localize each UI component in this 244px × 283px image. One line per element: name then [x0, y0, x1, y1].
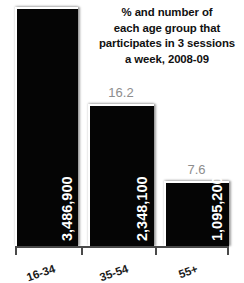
- x-axis-tick-2: [155, 246, 157, 255]
- bar-count-label-2: 2,348,100: [134, 176, 150, 241]
- x-axis-category-label-2: 35-54: [98, 262, 130, 283]
- x-axis-category-label-1: 16-34: [25, 262, 57, 283]
- bar-value-label-3: 7.6: [164, 162, 229, 177]
- bar-1: 3,486,900: [15, 7, 78, 246]
- x-axis-line: [15, 246, 229, 248]
- bar-3: 1,095,200: [164, 181, 229, 246]
- bar-chart: % and number of each age group that part…: [0, 0, 244, 283]
- bar-2: 2,348,100: [88, 104, 154, 246]
- x-axis-tick-left: [15, 246, 17, 255]
- bar-value-label-2: 16.2: [88, 85, 154, 100]
- x-axis-tick-right: [227, 246, 229, 255]
- bar-count-label-1: 3,486,900: [59, 176, 75, 241]
- x-axis-tick-1: [81, 246, 83, 255]
- bar-count-label-3: 1,095,200: [209, 176, 225, 241]
- plot-area: 3,486,900 16.2 2,348,100 7.6 1,095,200 1…: [0, 0, 244, 283]
- x-axis-category-label-3: 55+: [177, 263, 199, 281]
